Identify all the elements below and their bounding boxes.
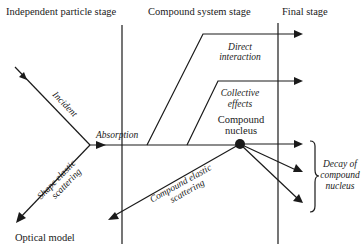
decay-arrowhead-1-icon (294, 140, 303, 148)
collective-effects-label-line2: effects (228, 99, 253, 109)
decay-brace (310, 141, 319, 212)
absorption-label: Absorption (95, 130, 138, 140)
decay-label-line1: Decay of (322, 159, 358, 169)
collective-effects-label-line1: Collective (221, 88, 260, 98)
collective-effects-arrowhead-icon (294, 77, 303, 85)
incident-label: Incident (50, 89, 80, 119)
decay-label-line3: nucleus (325, 181, 354, 191)
direct-interaction-arrowhead-icon (294, 30, 303, 38)
compound-nucleus-label-line2: nucleus (225, 125, 257, 136)
absorption-arrowhead-icon (96, 141, 106, 149)
decay-line-3 (240, 144, 297, 198)
compound-nucleus-label-line1: Compound (218, 114, 265, 125)
decay-arrowhead-2-icon (293, 164, 303, 172)
direct-interaction-label-line2: interaction (219, 52, 261, 62)
direct-interaction-label-line1: Direct (227, 42, 252, 52)
decay-label-line2: compound (320, 170, 360, 180)
header-compound-system-stage: Compound system stage (148, 6, 251, 17)
compound-elastic-label: Compound elastic scattering (148, 162, 219, 213)
optical-model-label: Optical model (15, 232, 75, 243)
header-final-stage: Final stage (282, 6, 328, 17)
shape-elastic-label: Shape elastic scattering (35, 157, 85, 208)
decay-line-2 (240, 144, 296, 170)
header-independent-particle-stage: Independent particle stage (6, 6, 117, 17)
compound-elastic-arrowhead-icon (108, 212, 119, 220)
nuclear-reaction-stages-diagram: Independent particle stage Compound syst… (0, 0, 363, 251)
